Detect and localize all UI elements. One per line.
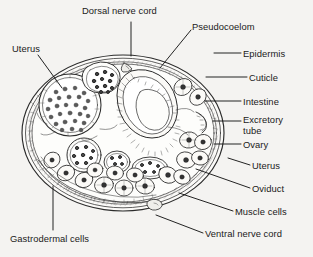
ventral-nerve-cord-structure: [147, 199, 162, 210]
label-gastrodermal-cells: Gastrodermal cells: [10, 234, 89, 245]
leader-muscle-cells: [179, 193, 233, 211]
leader-pseudocoelom: [160, 30, 191, 68]
label-oviduct: Oviduct: [252, 184, 284, 195]
label-ovary: Ovary: [243, 140, 268, 151]
label-uterus-left: Uterus: [12, 44, 40, 55]
uterus-upper-structure: [82, 62, 120, 94]
label-uterus-right: Uterus: [252, 161, 280, 172]
label-epidermis: Epidermis: [243, 49, 285, 60]
nematode-cross-section-figure: Dorsal nerve cordPseudocoelomUterusEpide…: [0, 0, 313, 257]
label-excretory-tube: Excretory tube: [243, 115, 283, 136]
label-pseudocoelom: Pseudocoelom: [192, 22, 255, 33]
leader-uterus-right: [228, 158, 250, 165]
label-cuticle: Cuticle: [249, 73, 278, 84]
label-intestine: Intestine: [243, 97, 279, 108]
label-ventral-nerve-cord: Ventral nerve cord: [205, 229, 282, 240]
label-muscle-cells: Muscle cells: [235, 207, 287, 218]
leader-ventral-nerve-cord: [156, 215, 203, 233]
label-dorsal-nerve-cord: Dorsal nerve cord: [82, 6, 157, 17]
